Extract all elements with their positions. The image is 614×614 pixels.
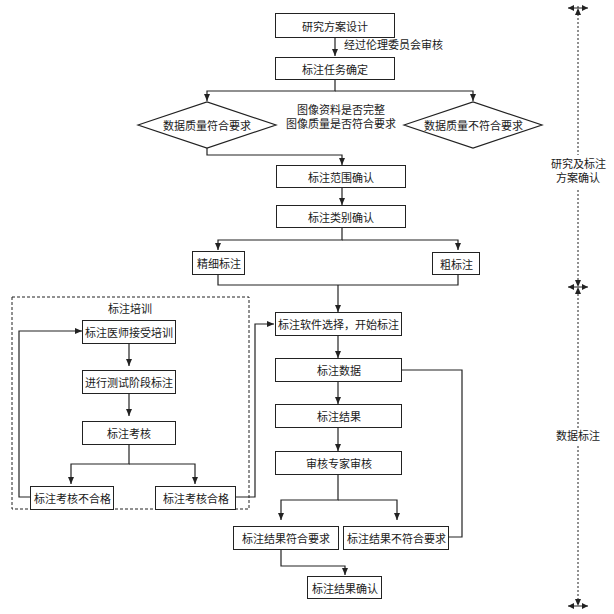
edge-label-ethics-review: 经过伦理委员会审核	[344, 39, 443, 53]
node-exam-pass: 标注考核合格	[155, 486, 236, 510]
node-label: 标注结果不符合要求	[347, 530, 446, 546]
node-label: 标注软件选择，开始标注	[278, 316, 399, 332]
decision-quality-ok: 数据质量符合要求	[138, 102, 276, 148]
node-label: 标注类别确认	[308, 209, 374, 225]
node-label: 标注结果符合要求	[242, 530, 330, 546]
node-label: 数据质量符合要求	[163, 117, 251, 133]
node-result-ok: 标注结果符合要求	[233, 526, 339, 550]
phase-label-line-1: 数据标注	[546, 430, 610, 444]
check-line-2: 图像质量是否符合要求	[285, 118, 397, 132]
node-result-confirm: 标注结果确认	[307, 576, 382, 599]
node-test-labeling: 进行测试阶段标注	[82, 370, 176, 394]
node-label: 标注结果确认	[312, 580, 378, 596]
node-label: 标注任务确定	[302, 61, 368, 77]
node-label: 粗标注	[440, 256, 473, 272]
node-category-confirm: 标注类别确认	[276, 205, 406, 228]
node-label: 标注范围确认	[308, 169, 374, 185]
phase-label-design: 研究及标注 方案确认	[546, 158, 610, 186]
node-exam-fail: 标注考核不合格	[30, 486, 114, 510]
node-coarse-label: 粗标注	[432, 252, 480, 275]
node-label: 标注医师接受培训	[85, 324, 173, 340]
node-label: 进行测试阶段标注	[85, 374, 173, 390]
node-label: 精细标注	[197, 255, 241, 271]
node-scope-confirm: 标注范围确认	[276, 165, 406, 188]
node-label: 标注数据	[317, 362, 361, 378]
node-label: 标注考核合格	[163, 490, 229, 506]
node-label: 标注考核不合格	[34, 490, 111, 506]
node-task-confirm: 标注任务确定	[275, 57, 395, 80]
node-label-exam: 标注考核	[82, 421, 176, 445]
check-line-1: 图像资料是否完整	[285, 104, 397, 118]
node-label: 标注结果	[317, 408, 361, 424]
node-label: 审核专家审核	[306, 455, 372, 471]
decision-quality-fail: 数据质量不符合要求	[404, 102, 542, 148]
node-software-select: 标注软件选择，开始标注	[275, 312, 402, 336]
node-label-result: 标注结果	[275, 404, 402, 428]
node-label: 研究方案设计	[302, 18, 368, 34]
node-fine-label: 精细标注	[192, 251, 245, 275]
node-label: 标注考核	[107, 425, 151, 441]
node-label-data: 标注数据	[275, 358, 402, 382]
node-doctor-training: 标注医师接受培训	[82, 320, 176, 344]
node-expert-review: 审核专家审核	[275, 451, 402, 475]
node-result-fail: 标注结果不符合要求	[343, 526, 449, 550]
training-group-title: 标注培训	[108, 300, 152, 316]
flowchart-connectors	[0, 0, 614, 614]
node-research-design: 研究方案设计	[275, 13, 395, 38]
phase-label-line-2: 方案确认	[546, 172, 610, 186]
edge-label-quality-check: 图像资料是否完整 图像质量是否符合要求	[285, 104, 397, 132]
phase-label-line-1: 研究及标注	[546, 158, 610, 172]
phase-label-annotation: 数据标注	[546, 430, 610, 444]
node-label: 数据质量不符合要求	[424, 117, 523, 133]
